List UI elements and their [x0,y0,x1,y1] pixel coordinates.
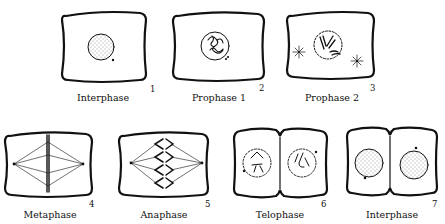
cell-anaphase [119,132,208,197]
stage-number: 5 [205,199,210,209]
stage-label: Telophase [256,209,304,220]
stage-label: Anaphase [140,209,187,220]
stage-label: Metaphase [23,209,76,220]
stage-label: Prophase 2 [305,92,359,103]
cell-telophase [234,129,327,198]
cell-interphase-7 [347,128,437,196]
stage-number: 2 [259,83,264,93]
stage-number: 7 [432,199,437,209]
cell-metaphase [5,132,92,197]
stage-label: Interphase [366,209,418,220]
cell-prophase-1 [173,12,264,81]
stage-number: 3 [370,83,375,93]
stage-label: Prophase 1 [192,92,246,103]
stage-label: Interphase [77,92,129,103]
cell-interphase-1 [62,12,146,82]
stage-number: 4 [89,199,94,209]
aster-left [293,46,305,58]
cell-prophase-2 [287,12,374,79]
mitosis-diagram [0,0,445,224]
stage-number: 1 [150,84,155,94]
stage-number: 6 [321,199,326,209]
